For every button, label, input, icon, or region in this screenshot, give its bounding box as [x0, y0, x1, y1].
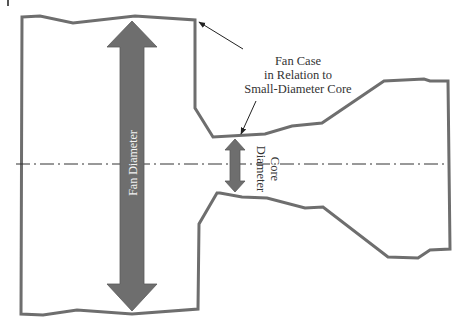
fan-diameter-label: Fan Diameter: [125, 113, 141, 213]
core-label-line-1: Core: [268, 134, 282, 204]
core-diameter-arrow: [225, 139, 245, 192]
core-label-line-2: Diameter: [254, 134, 268, 204]
annotation-line-2: in Relation to: [238, 68, 358, 82]
annotation-line-3: Small-Diameter Core: [238, 82, 358, 96]
annotation-line-1: Fan Case: [238, 54, 358, 68]
leader-arrow-core: [241, 101, 256, 134]
engine-schematic: [0, 0, 469, 328]
fan-case-annotation: Fan Case in Relation to Small-Diameter C…: [238, 54, 358, 96]
core-diameter-label: Core Diameter: [252, 134, 282, 204]
leader-arrow-fan-case: [199, 22, 243, 49]
